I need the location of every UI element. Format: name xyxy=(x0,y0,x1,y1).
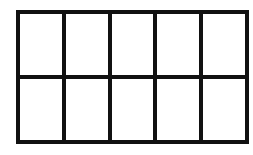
grid-cell-r1-c5 xyxy=(203,14,245,75)
grid-cell-r2-c3 xyxy=(112,79,154,140)
grid-cell-r1-c1 xyxy=(20,14,62,75)
grid-2x5 xyxy=(16,10,249,144)
grid-cell-r2-c1 xyxy=(20,79,62,140)
grid-cell-r1-c4 xyxy=(157,14,199,75)
grid-cell-r2-c5 xyxy=(203,79,245,140)
grid-cell-r1-c3 xyxy=(112,14,154,75)
grid-cell-r2-c4 xyxy=(157,79,199,140)
grid-cell-r1-c2 xyxy=(66,14,108,75)
grid-cell-r2-c2 xyxy=(66,79,108,140)
